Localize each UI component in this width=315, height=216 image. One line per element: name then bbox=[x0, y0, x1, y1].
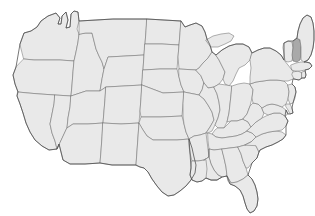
state-ND[interactable] bbox=[145, 19, 181, 45]
state-WA[interactable] bbox=[20, 11, 79, 61]
state-PA[interactable] bbox=[250, 80, 289, 108]
state-OR[interactable] bbox=[13, 59, 74, 96]
state-MA[interactable] bbox=[291, 62, 312, 71]
state-SD[interactable] bbox=[143, 44, 179, 70]
us-states-map[interactable] bbox=[0, 0, 315, 216]
state-VT[interactable] bbox=[283, 41, 293, 62]
state-NM[interactable] bbox=[100, 123, 139, 165]
us-map-container bbox=[0, 0, 315, 216]
state-CO[interactable] bbox=[103, 85, 142, 124]
state-NH[interactable] bbox=[292, 38, 301, 62]
